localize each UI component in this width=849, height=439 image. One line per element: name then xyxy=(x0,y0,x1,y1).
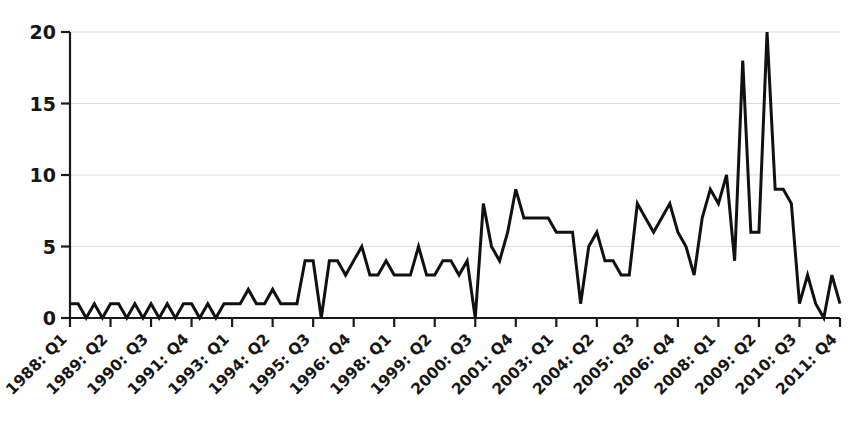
x-axis xyxy=(70,318,840,327)
x-tick-labels: 1988: Q11989: Q21990: Q31991: Q41993: Q1… xyxy=(2,330,841,399)
y-tick-label: 15 xyxy=(30,93,56,115)
gridlines xyxy=(70,32,840,247)
line-chart: 05101520 1988: Q11989: Q21990: Q31991: Q… xyxy=(0,0,849,439)
chart-canvas: 05101520 1988: Q11989: Q21990: Q31991: Q… xyxy=(0,0,849,439)
y-tick-label: 20 xyxy=(30,21,56,43)
y-tick-labels: 05101520 xyxy=(30,21,56,329)
y-tick-label: 5 xyxy=(43,236,56,258)
y-tick-label: 10 xyxy=(30,164,56,186)
y-tick-label: 0 xyxy=(43,307,56,329)
y-axis xyxy=(61,32,70,318)
